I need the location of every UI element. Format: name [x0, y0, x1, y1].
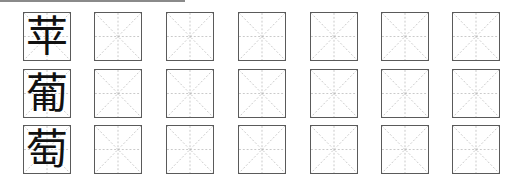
practice-cell[interactable]: [94, 69, 142, 118]
mi-grid-guide-icon: [453, 13, 499, 60]
mi-grid-guide-icon: [239, 126, 285, 173]
mi-grid-guide-icon: [311, 70, 357, 117]
practice-cell[interactable]: [166, 69, 214, 118]
practice-cell[interactable]: [381, 125, 429, 174]
practice-cell[interactable]: [310, 125, 358, 174]
model-character: 葡: [24, 70, 70, 117]
mi-grid-guide-icon: [453, 70, 499, 117]
practice-cell[interactable]: [94, 125, 142, 174]
top-divider-line: [0, 0, 185, 2]
practice-cell[interactable]: [452, 12, 500, 61]
practice-cell[interactable]: [166, 125, 214, 174]
practice-cell[interactable]: [238, 125, 286, 174]
mi-grid-guide-icon: [453, 126, 499, 173]
mi-grid-guide-icon: [95, 126, 141, 173]
model-character: 苹: [24, 13, 70, 60]
practice-cell[interactable]: [310, 12, 358, 61]
practice-cell[interactable]: [166, 12, 214, 61]
practice-cell[interactable]: [238, 69, 286, 118]
mi-grid-guide-icon: [95, 70, 141, 117]
mi-grid-guide-icon: [382, 13, 428, 60]
practice-cell[interactable]: [452, 69, 500, 118]
model-character-cell: 葡: [23, 69, 71, 118]
mi-grid-guide-icon: [239, 13, 285, 60]
mi-grid-guide-icon: [95, 13, 141, 60]
mi-grid-guide-icon: [167, 70, 213, 117]
mi-grid-guide-icon: [167, 13, 213, 60]
practice-cell[interactable]: [452, 125, 500, 174]
practice-cell[interactable]: [238, 12, 286, 61]
mi-grid-guide-icon: [167, 126, 213, 173]
model-character-cell: 萄: [23, 125, 71, 174]
mi-grid-guide-icon: [382, 126, 428, 173]
practice-cell[interactable]: [310, 69, 358, 118]
mi-grid-guide-icon: [382, 70, 428, 117]
mi-grid-guide-icon: [311, 126, 357, 173]
model-character-cell: 苹: [23, 12, 71, 61]
mi-grid-guide-icon: [239, 70, 285, 117]
practice-cell[interactable]: [94, 12, 142, 61]
model-character: 萄: [24, 126, 70, 173]
practice-cell[interactable]: [381, 12, 429, 61]
practice-cell[interactable]: [381, 69, 429, 118]
mi-grid-guide-icon: [311, 13, 357, 60]
